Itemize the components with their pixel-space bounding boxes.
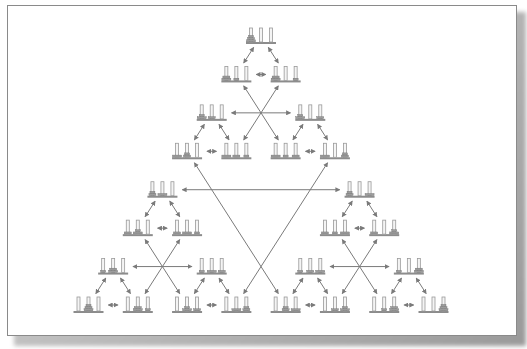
hanoi-state-node — [295, 259, 325, 275]
transition-arrow — [121, 278, 131, 293]
hanoi-state-node — [172, 297, 202, 313]
hanoi-state-node — [197, 105, 227, 121]
hanoi-state-node — [271, 143, 301, 159]
hanoi-state-node — [221, 297, 251, 313]
transition-arrow — [318, 124, 328, 139]
transition-arrow — [268, 48, 278, 63]
transition-arrow — [96, 278, 106, 293]
transition-arrow — [145, 201, 155, 216]
transition-arrow — [219, 278, 229, 293]
hanoi-state-node — [172, 143, 202, 159]
hanoi-state-node — [369, 220, 399, 236]
hanoi-state-node — [98, 259, 128, 275]
hanoi-state-node — [394, 259, 424, 275]
hanoi-state-graph — [0, 0, 527, 349]
hanoi-state-node — [369, 297, 399, 313]
transition-arrow — [293, 278, 303, 293]
hanoi-state-node — [74, 297, 104, 313]
hanoi-state-node — [320, 297, 350, 313]
transition-arrow — [219, 124, 229, 139]
transition-arrow — [342, 201, 352, 216]
transition-arrow — [416, 278, 426, 293]
hanoi-state-node — [221, 143, 251, 159]
hanoi-state-node — [320, 143, 350, 159]
hanoi-state-node — [271, 66, 301, 82]
transition-arrow — [244, 48, 254, 63]
state-transition-edges — [96, 48, 426, 305]
transition-arrow — [392, 278, 402, 293]
transition-arrow — [318, 278, 328, 293]
transition-arrow — [293, 124, 303, 139]
hanoi-state-node — [345, 182, 375, 198]
hanoi-state-node — [246, 28, 276, 44]
hanoi-state-node — [271, 297, 301, 313]
transition-arrow — [170, 201, 180, 216]
transition-arrow — [194, 278, 204, 293]
hanoi-state-node — [123, 220, 153, 236]
hanoi-state-node — [221, 66, 251, 82]
transition-arrow — [367, 201, 377, 216]
hanoi-state-node — [419, 297, 449, 313]
hanoi-state-node — [295, 105, 325, 121]
hanoi-state-node — [147, 182, 177, 198]
state-nodes — [74, 28, 449, 313]
hanoi-state-node — [172, 220, 202, 236]
hanoi-state-node — [123, 297, 153, 313]
hanoi-state-node — [197, 259, 227, 275]
transition-arrow — [194, 124, 204, 139]
hanoi-state-node — [320, 220, 350, 236]
